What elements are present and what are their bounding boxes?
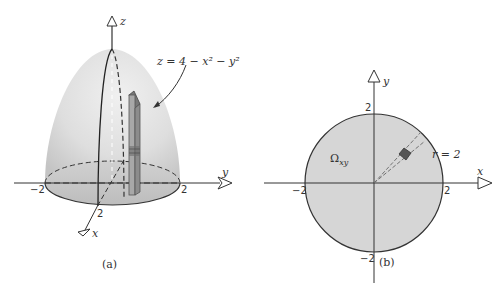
y-axis-arrow-icon [368,70,380,82]
panel-a: z z = 4 − x² − y² y −2 2 2 x (a) [14,15,240,271]
tick-y-neg2: −2 [30,184,45,195]
z-axis-arrow-icon [107,16,117,26]
surface-equation-label: z = 4 − x² − y² [156,55,240,68]
y-axis-label: y [221,166,229,179]
caption-a: (a) [102,258,117,271]
x-axis-arrow-icon [478,177,492,189]
caption-b: (b) [379,256,395,269]
tick-x-2: 2 [97,208,103,219]
tick-x-neg2: −2 [292,185,307,196]
radius-label: r = 2 [432,148,460,161]
tick-x-2: 2 [444,185,450,196]
figure-canvas: z z = 4 − x² − y² y −2 2 2 x (a) y 2 Ωxy… [0,0,497,293]
y-axis-label: y [382,75,390,88]
panel-b: y 2 Ωxy r = 2 x −2 2 −2 (b) [264,70,492,283]
tick-y-2: 2 [365,102,371,113]
volume-element-column [129,91,140,195]
tick-y-2: 2 [181,184,187,195]
z-axis-label: z [119,15,126,28]
x-axis-arrow-icon [78,229,90,236]
tick-y-neg2: −2 [360,253,375,264]
x-axis-label: x [477,165,484,178]
x-axis-label: x [92,227,99,240]
